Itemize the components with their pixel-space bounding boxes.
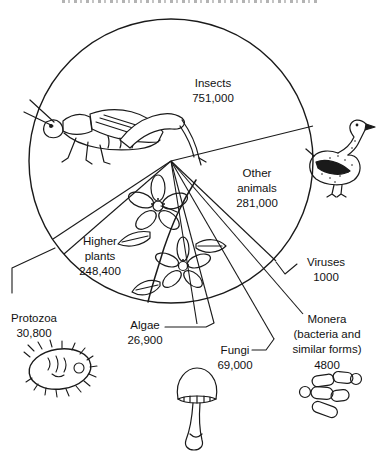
label-monera: Monera (bacteria and similar forms) 4800 <box>283 312 371 373</box>
boundary-insects-other-animals <box>171 126 313 161</box>
label-algae-value: 26,900 <box>117 333 173 348</box>
label-protozoa-value: 30,800 <box>2 326 66 341</box>
boundary-protozoa-insects <box>53 161 171 239</box>
grasshopper-illustration <box>24 100 206 165</box>
flowering-plant-illustration <box>118 175 226 302</box>
mushroom-illustration <box>177 368 216 450</box>
label-viruses: Viruses 1000 <box>297 255 355 285</box>
label-insects-name: Insects <box>185 76 241 91</box>
label-fungi-value: 69,000 <box>210 358 260 373</box>
label-monera-desc1: (bacteria and <box>283 327 371 342</box>
duck-illustration <box>306 120 375 197</box>
label-monera-value: 4800 <box>283 358 371 373</box>
label-higher-plants-value: 248,400 <box>71 264 129 279</box>
label-protozoa: Protozoa 30,800 <box>2 311 66 341</box>
label-monera-name: Monera <box>283 312 371 327</box>
label-other-animals-name1: Other <box>228 166 286 181</box>
label-other-animals: Other animals 281,000 <box>228 166 286 212</box>
label-monera-desc2: similar forms) <box>283 342 371 357</box>
leader-protozoa <box>12 248 55 293</box>
label-protozoa-name: Protozoa <box>2 311 66 326</box>
protozoan-illustration <box>24 340 97 397</box>
label-other-animals-value: 281,000 <box>228 196 286 211</box>
label-higher-plants: Higher plants 248,400 <box>71 234 129 280</box>
bacteria-illustration <box>300 371 362 419</box>
label-viruses-name: Viruses <box>297 255 355 270</box>
label-insects: Insects 751,000 <box>185 76 241 106</box>
label-viruses-value: 1000 <box>297 270 355 285</box>
label-algae-name: Algae <box>117 318 173 333</box>
label-other-animals-name2: animals <box>228 181 286 196</box>
pie-chart-canvas <box>0 0 380 458</box>
label-fungi: Fungi 69,000 <box>210 343 260 373</box>
label-higher-plants-name1: Higher <box>71 234 129 249</box>
wedge-boundaries <box>53 126 313 339</box>
label-algae: Algae 26,900 <box>117 318 173 348</box>
label-insects-value: 751,000 <box>185 91 241 106</box>
label-higher-plants-name2: plants <box>71 249 129 264</box>
label-fungi-name: Fungi <box>210 343 260 358</box>
leader-viruses <box>276 262 297 274</box>
species-pie-chart-figure: Insects 751,000 Other animals 281,000 Hi… <box>0 0 380 458</box>
